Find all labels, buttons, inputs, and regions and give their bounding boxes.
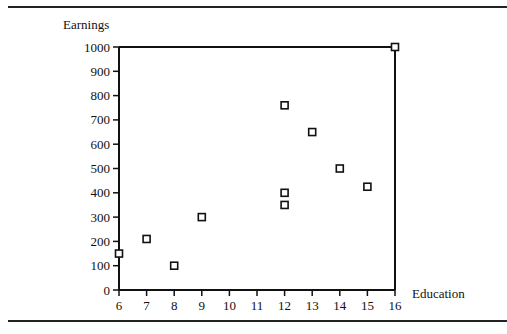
y-tick-label: 800 [91, 88, 111, 103]
y-tick-label: 900 [91, 64, 111, 79]
x-tick-label: 16 [389, 298, 403, 313]
data-points [116, 44, 399, 270]
y-tick-label: 400 [91, 185, 111, 200]
data-point-marker [143, 235, 150, 242]
data-point-marker [281, 189, 288, 196]
data-point-marker [171, 262, 178, 269]
x-tick-label: 11 [251, 298, 264, 313]
y-tick-label: 1000 [84, 40, 110, 55]
x-tick-label: 6 [116, 298, 123, 313]
x-tick-label: 12 [278, 298, 291, 313]
data-point-marker [364, 183, 371, 190]
data-point-marker [116, 250, 123, 257]
x-tick-label: 10 [223, 298, 236, 313]
x-tick-label: 13 [306, 298, 319, 313]
y-tick-label: 500 [91, 161, 111, 176]
x-tick-label: 15 [361, 298, 374, 313]
data-point-marker [309, 129, 316, 136]
y-axis-label: Earnings [63, 17, 109, 32]
y-tick-label: 100 [91, 258, 111, 273]
data-point-marker [392, 44, 399, 51]
data-point-marker [281, 102, 288, 109]
x-axis-label: Education [412, 286, 465, 301]
data-point-marker [198, 214, 205, 221]
y-tick-label: 0 [104, 283, 111, 298]
y-tick-label: 300 [91, 210, 111, 225]
x-tick-label: 9 [199, 298, 206, 313]
y-tick-label: 600 [91, 137, 111, 152]
data-point-marker [281, 201, 288, 208]
y-tick-label: 700 [91, 112, 111, 127]
x-tick-label: 8 [171, 298, 178, 313]
y-tick-label: 200 [91, 234, 111, 249]
axes: 0100200300400500600700800900100067891011… [84, 40, 402, 314]
data-point-marker [336, 165, 343, 172]
x-tick-label: 14 [333, 298, 347, 313]
scatter-chart: Earnings Education 010020030040050060070… [0, 0, 507, 334]
x-tick-label: 7 [143, 298, 150, 313]
